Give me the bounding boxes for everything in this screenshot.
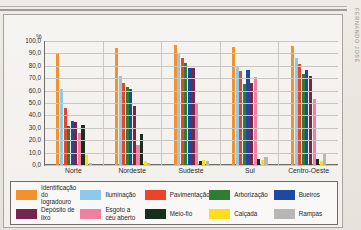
y-axis-tick-label: 20,0 — [29, 137, 41, 143]
legend-swatch — [16, 190, 37, 200]
legend-swatch — [80, 209, 101, 219]
gridline — [45, 78, 338, 79]
y-axis-ticks: 0,010,020,030,040,050,060,070,080,090,01… — [10, 41, 43, 165]
bar — [195, 103, 198, 165]
legend-item[interactable]: Esgoto a céu aberto — [77, 206, 141, 220]
chart-legend: Identificação do logradouroIluminaçãoPav… — [10, 181, 338, 225]
x-axis-category-label: Centro-Oeste — [279, 167, 338, 181]
x-axis-labels: NorteNordesteSudesteSulCentro-Oeste — [44, 167, 338, 181]
legend-item[interactable]: Pavimentação — [142, 190, 206, 200]
legend-swatch — [80, 190, 101, 200]
legend-label: Arborização — [234, 191, 268, 198]
bars-canvas — [44, 41, 338, 165]
y-axis-tick-label: 10,0 — [29, 149, 41, 155]
legend-label: Esgoto a céu aberto — [105, 206, 135, 220]
y-axis-tick-label: 90,0 — [29, 50, 41, 56]
legend-label: Rampas — [299, 210, 322, 217]
y-axis-tick-label: 70,0 — [29, 75, 41, 81]
y-axis-tick-label: 40,0 — [29, 112, 41, 118]
legend-swatch — [274, 209, 295, 219]
legend-swatch — [274, 190, 295, 200]
gridline — [45, 153, 338, 154]
legend-row: Identificação do logradouroIluminaçãoPav… — [13, 185, 335, 204]
legend-item[interactable]: Calçada — [206, 209, 270, 219]
gridline — [45, 115, 338, 116]
legend-row: Depósito de lixoEsgoto a céu abertoMeio-… — [13, 204, 335, 223]
plot-area: % 0,010,020,030,040,050,060,070,080,090,… — [10, 33, 344, 173]
gridline — [45, 140, 338, 141]
legend-item[interactable]: Bueiros — [271, 190, 335, 200]
legend-item[interactable]: Meio-fio — [142, 209, 206, 219]
x-axis-category-label: Norte — [44, 167, 103, 181]
legend-label: Meio-fio — [170, 210, 192, 217]
legend-label: Pavimentação — [170, 191, 210, 198]
y-axis-tick-label: 60,0 — [29, 87, 41, 93]
legend-swatch — [145, 209, 166, 219]
legend-swatch — [145, 190, 166, 200]
chart-frame: % 0,010,020,030,040,050,060,070,080,090,… — [3, 14, 343, 228]
bar — [313, 99, 316, 165]
gridline — [45, 53, 338, 54]
page-rule — [0, 9, 347, 11]
gridline — [45, 103, 338, 104]
y-axis-tick-label: 100,0 — [25, 38, 41, 44]
legend-label: Bueiros — [299, 191, 320, 198]
gridline — [45, 41, 338, 42]
y-axis-tick-label: 30,0 — [29, 125, 41, 131]
legend-item[interactable]: Rampas — [271, 209, 335, 219]
bar — [264, 157, 267, 165]
legend-label: Iluminação — [105, 191, 135, 198]
y-axis-tick-label: 50,0 — [29, 100, 41, 106]
gridline — [45, 66, 338, 67]
gridline — [45, 128, 338, 129]
legend-item[interactable]: Depósito de lixo — [13, 206, 77, 220]
legend-label: Depósito de lixo — [41, 206, 77, 220]
page-rule-thin — [0, 6, 347, 7]
scanned-page: FERNANDO JOSÉ % 0,010,020,030,040,050,06… — [0, 0, 361, 230]
x-axis-category-label: Nordeste — [103, 167, 162, 181]
legend-label: Calçada — [234, 210, 257, 217]
x-axis-category-label: Sul — [220, 167, 279, 181]
legend-swatch — [209, 209, 230, 219]
legend-swatch — [209, 190, 230, 200]
legend-item[interactable]: Iluminação — [77, 190, 141, 200]
gridline — [45, 165, 338, 166]
bar — [323, 153, 326, 165]
legend-item[interactable]: Arborização — [206, 190, 270, 200]
margin-stamp: FERNANDO JOSÉ — [354, 8, 360, 63]
legend-label: Identificação do logradouro — [41, 184, 77, 206]
legend-swatch — [16, 209, 37, 219]
legend-item[interactable]: Identificação do logradouro — [13, 184, 77, 206]
y-axis-tick-label: 80,0 — [29, 63, 41, 69]
gridline — [45, 91, 338, 92]
y-axis-tick-label: 0,0 — [32, 162, 41, 168]
x-axis-category-label: Sudeste — [162, 167, 221, 181]
